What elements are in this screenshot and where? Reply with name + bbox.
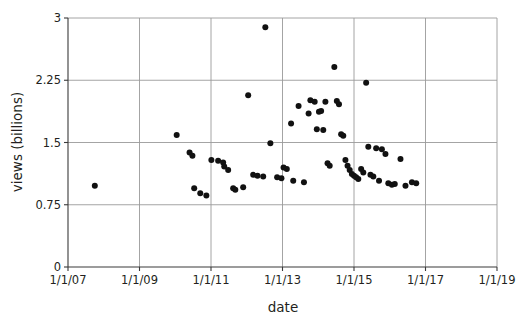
data-point: [336, 101, 342, 107]
data-point: [376, 178, 382, 184]
data-point: [225, 167, 231, 173]
scatter-chart-figure: 1/1/071/1/091/1/111/1/131/1/151/1/171/1/…: [0, 0, 532, 323]
chart-canvas: 1/1/071/1/091/1/111/1/131/1/151/1/171/1/…: [0, 0, 532, 323]
y-tick-label: 3: [54, 11, 61, 25]
data-point: [331, 64, 337, 70]
data-point: [340, 133, 346, 139]
data-point: [320, 127, 326, 133]
data-point: [301, 179, 307, 185]
data-point: [379, 146, 385, 152]
data-point: [363, 80, 369, 86]
data-point: [382, 151, 388, 157]
data-point: [174, 132, 180, 138]
data-point: [318, 108, 324, 114]
data-point: [306, 110, 312, 116]
data-point: [191, 185, 197, 191]
data-point: [254, 173, 260, 179]
data-point: [397, 156, 403, 162]
data-point: [365, 144, 371, 150]
x-axis-title: date: [268, 299, 298, 315]
data-point: [370, 174, 376, 180]
data-point: [267, 140, 273, 146]
data-point: [392, 181, 398, 187]
y-tick-label: 0: [54, 260, 61, 274]
data-point: [360, 169, 366, 175]
data-point: [197, 190, 203, 196]
data-point: [373, 145, 379, 151]
data-point: [355, 176, 361, 182]
y-tick-label: 0.75: [35, 198, 61, 212]
data-point: [245, 92, 251, 98]
data-point: [240, 184, 246, 190]
data-point: [232, 187, 238, 193]
data-point: [278, 175, 284, 181]
data-point: [327, 163, 333, 169]
data-point: [262, 24, 268, 30]
x-tick-label: 1/1/17: [407, 273, 444, 287]
x-tick-label: 1/1/13: [264, 273, 301, 287]
y-axis-title: views (billions): [9, 92, 25, 192]
y-tick-label: 1.5: [43, 136, 61, 150]
data-point: [290, 178, 296, 184]
x-tick-label: 1/1/15: [335, 273, 372, 287]
data-point: [342, 157, 348, 163]
data-point: [92, 183, 98, 189]
x-tick-label: 1/1/19: [478, 273, 515, 287]
data-point: [260, 174, 266, 180]
data-point: [288, 120, 294, 126]
y-tick-label: 2.25: [35, 73, 61, 87]
data-point: [208, 157, 214, 163]
data-point: [312, 99, 318, 105]
data-point: [314, 126, 320, 132]
data-point: [203, 193, 209, 199]
data-point: [189, 153, 195, 159]
x-tick-label: 1/1/11: [192, 273, 229, 287]
data-point: [322, 99, 328, 105]
x-tick-label: 1/1/07: [49, 273, 86, 287]
data-point: [413, 180, 419, 186]
x-tick-label: 1/1/09: [121, 273, 158, 287]
data-point: [284, 166, 290, 172]
data-point: [402, 183, 408, 189]
data-point: [296, 103, 302, 109]
